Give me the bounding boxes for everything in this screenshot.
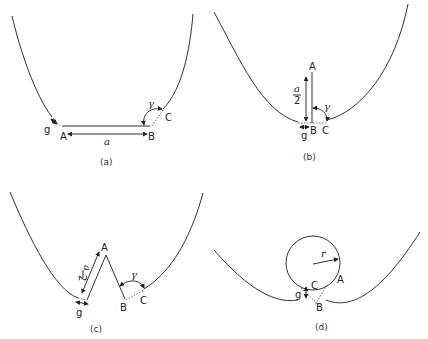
label-gamma: γ [324, 101, 330, 112]
gap-dash-left [78, 298, 86, 300]
label-gamma: γ [131, 269, 137, 280]
label-g: g [76, 307, 82, 318]
panel-c: A B C g a 2 γ (c) [10, 192, 203, 334]
surface-curve-right [327, 4, 408, 120]
panel-b: A B C g a 2 γ (b) [214, 4, 408, 162]
surface-curve-left [10, 192, 78, 298]
label-g: g [44, 124, 50, 135]
label-B: B [148, 131, 155, 142]
surface-curve-left [214, 250, 298, 301]
label-B: B [120, 302, 127, 313]
surface-curve-right [163, 14, 193, 109]
label-g: g [295, 289, 301, 300]
label-C: C [165, 112, 172, 123]
length-arrow-a-half [82, 252, 99, 293]
label-g: g [301, 130, 307, 141]
label-gamma: γ [148, 98, 154, 109]
label-a-den: 2 [77, 275, 88, 281]
caption-a: (a) [100, 157, 113, 167]
label-C: C [311, 280, 318, 291]
label-C: C [322, 125, 329, 136]
label-A: A [101, 242, 108, 253]
surface-curve-left [214, 12, 298, 122]
label-a-num: a [82, 265, 93, 271]
caption-b: (b) [303, 152, 316, 162]
panel-a: A B C g a γ (a) [12, 14, 193, 167]
caption-d: (d) [315, 322, 328, 332]
surface-curve-left [12, 16, 52, 117]
label-C: C [140, 295, 147, 306]
label-a: a [104, 136, 110, 147]
label-A: A [60, 131, 67, 142]
label-A: A [337, 274, 344, 285]
panel-d: r A B C g (d) [214, 232, 420, 332]
surface-curve-right [144, 193, 203, 289]
label-r: r [321, 248, 327, 259]
label-a-den: 2 [294, 95, 300, 106]
angle-arc-gamma [120, 281, 144, 288]
diagram-canvas: A B C g a γ (a) A B C g a 2 γ (b) A [0, 0, 428, 339]
label-a-num: a [294, 83, 300, 94]
gap-arrow-g [76, 302, 88, 304]
radius-arrow-r [313, 259, 338, 264]
gap-dash-c [152, 110, 163, 126]
segments-BAC [87, 255, 125, 300]
gap-arrow-g [51, 119, 57, 124]
caption-c: (c) [90, 324, 102, 334]
label-B: B [310, 125, 317, 136]
angle-arc-gamma [144, 109, 162, 125]
label-A: A [309, 61, 316, 72]
label-B: B [316, 302, 323, 313]
